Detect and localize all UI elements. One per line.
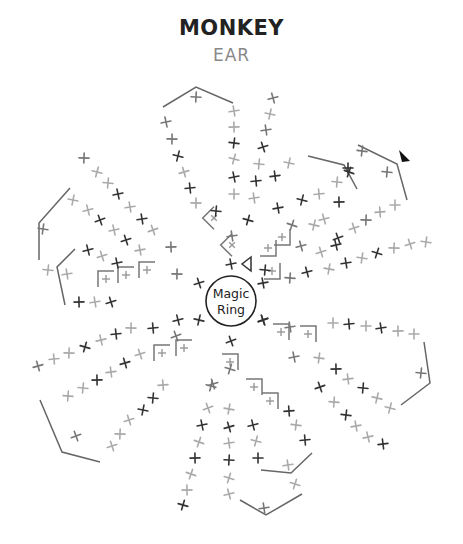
single-crochet-icon: [344, 319, 355, 330]
single-crochet-icon: [63, 391, 74, 402]
single-crochet-icon: [377, 438, 388, 449]
single-crochet-icon: [202, 402, 215, 415]
single-crochet-icon: [331, 364, 341, 374]
single-crochet-icon: [191, 92, 202, 103]
single-crochet-icon: [389, 243, 399, 253]
single-crochet-icon: [257, 314, 270, 327]
single-crochet-icon: [64, 348, 74, 358]
single-crochet-icon: [247, 419, 259, 431]
single-crochet-icon: [112, 188, 124, 200]
single-crochet-icon: [269, 170, 280, 181]
single-crochet-icon: [334, 197, 344, 207]
single-crochet-icon: [242, 214, 254, 226]
single-crochet-icon: [340, 409, 351, 420]
single-crochet-icon: [315, 246, 327, 258]
single-crochet-icon: [190, 453, 200, 463]
single-crochet-icon: [342, 373, 353, 384]
single-crochet-icon: [134, 348, 147, 361]
open-triangle-icon: [242, 257, 251, 271]
single-crochet-icon: [229, 122, 239, 132]
single-crochet-icon: [96, 250, 109, 263]
single-crochet-icon: [375, 207, 386, 218]
increase-icon: [98, 271, 114, 287]
increase-icon: [154, 345, 170, 361]
single-crochet-icon: [89, 296, 100, 307]
single-crochet-icon: [260, 265, 271, 276]
single-crochet-icon: [361, 215, 371, 225]
single-crochet-icon: [371, 392, 383, 404]
single-crochet-icon: [284, 406, 295, 417]
single-crochet-icon: [228, 171, 240, 183]
single-crochet-icon: [193, 436, 206, 449]
single-crochet-icon: [223, 472, 235, 484]
single-crochet-icon: [350, 420, 362, 432]
single-crochet-icon: [82, 244, 94, 256]
single-crochet-icon: [67, 194, 79, 206]
single-crochet-icon: [282, 459, 293, 470]
single-crochet-icon: [340, 257, 351, 268]
increase-icon: [246, 379, 262, 395]
single-crochet-icon: [332, 232, 345, 245]
single-crochet-icon: [295, 240, 307, 252]
chain-line: [40, 400, 100, 462]
single-crochet-icon: [290, 419, 301, 430]
single-crochet-icon: [207, 378, 219, 390]
single-crochet-icon: [226, 230, 237, 241]
single-crochet-icon: [358, 383, 369, 394]
single-crochet-icon: [314, 189, 325, 200]
single-crochet-icon: [224, 455, 235, 466]
single-crochet-icon: [356, 252, 367, 263]
single-crochet-icon: [119, 357, 131, 369]
single-crochet-icon: [148, 323, 159, 334]
single-crochet-icon: [314, 381, 327, 394]
single-crochet-icon: [148, 393, 159, 404]
magic-ring-circle: [206, 276, 256, 326]
single-crochet-icon: [393, 326, 403, 336]
single-crochet-icon: [248, 192, 259, 203]
single-crochet-icon: [111, 329, 122, 340]
single-crochet-icon: [229, 189, 239, 199]
single-crochet-icon: [185, 468, 198, 481]
single-crochet-icon: [382, 167, 393, 178]
single-crochet-icon: [250, 435, 262, 447]
single-crochet-icon: [348, 222, 361, 235]
single-crochet-icon: [384, 402, 396, 414]
single-crochet-icon: [126, 323, 136, 333]
start-arrow-icon: [399, 150, 410, 162]
single-crochet-icon: [78, 383, 89, 394]
increase-icon: [264, 263, 280, 279]
single-crochet-icon: [193, 277, 206, 290]
single-crochet-icon: [211, 206, 222, 217]
single-crochet-icon: [375, 322, 386, 333]
single-crochet-icon: [172, 269, 182, 279]
increase-icon: [300, 326, 316, 342]
chain-line: [57, 249, 75, 305]
single-crochet-icon: [329, 397, 340, 408]
single-crochet-icon: [283, 157, 295, 169]
single-crochet-icon: [205, 380, 217, 392]
single-crochet-icon: [285, 273, 296, 284]
single-crochet-icon: [390, 200, 400, 210]
single-crochet-icon: [225, 335, 238, 348]
single-crochet-icon: [404, 238, 417, 251]
single-crochet-icon: [137, 404, 149, 416]
single-crochet-icon: [301, 266, 313, 278]
single-crochet-icon: [177, 499, 189, 511]
increase-icon: [176, 340, 192, 356]
single-crochet-icon: [182, 485, 192, 495]
single-crochet-icon: [134, 244, 146, 256]
single-crochet-icon: [328, 318, 338, 328]
single-crochet-icon: [178, 166, 190, 178]
single-crochet-icon: [313, 352, 324, 363]
single-crochet-icon: [225, 258, 237, 270]
single-crochet-icon: [61, 268, 72, 279]
single-crochet-icon: [196, 419, 208, 431]
single-crochet-icon: [185, 183, 196, 194]
single-crochet-icon: [361, 321, 371, 331]
single-crochet-icon: [123, 414, 135, 426]
magic-ring: Magic Ring: [206, 276, 256, 326]
single-crochet-icon: [92, 375, 102, 385]
single-crochet-icon: [223, 403, 235, 415]
single-crochet-icon: [105, 366, 116, 377]
single-crochet-icon: [323, 263, 335, 275]
